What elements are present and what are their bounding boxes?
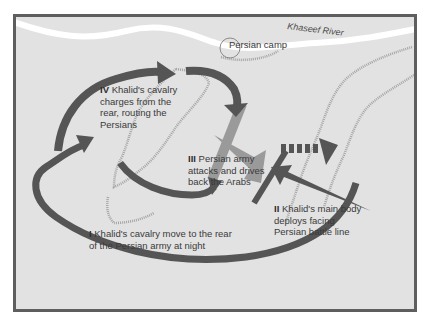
phase-iii-label: III Persian army attacks and drives back…	[188, 153, 265, 188]
phase-ii-line2: deploys facing	[274, 215, 361, 227]
phase-iii-line1: Persian army	[199, 153, 255, 164]
phase-ii-numeral: II	[274, 203, 279, 214]
phase-ii-label: II Khalid's main body deploys facing Per…	[274, 203, 361, 238]
phase-i-line2: of the Persian army at night	[89, 240, 232, 252]
phase-ii-line3: Persian battle line	[274, 226, 361, 238]
phase-iii-line2: attacks and drives	[188, 165, 265, 177]
phase-iv-line1: Khalid's cavalry	[112, 84, 178, 95]
phase-iii-line3: back the Arabs	[188, 176, 265, 188]
retreat-arrow	[281, 138, 338, 165]
phase-i-label: I Khalid's cavalry move to the rear of t…	[89, 228, 232, 251]
camp-label: Persian camp	[229, 39, 287, 50]
khaseef-river	[16, 21, 417, 48]
phase-ii-line1: Khalid's main body	[282, 203, 361, 214]
phase-iv-line2: charges from the	[100, 96, 177, 108]
phase-i-numeral: I	[89, 228, 92, 239]
cavalry-charge-arrow-right	[186, 71, 248, 117]
battle-map: Khaseef River Persian camp IV Khalid's c…	[13, 14, 417, 312]
phase-iv-line3: rear, routing the	[100, 107, 177, 119]
phase-iv-numeral: IV	[100, 84, 109, 95]
phase-iv-label: IV Khalid's cavalry charges from the rea…	[100, 84, 177, 130]
phase-iv-line4: Persians	[100, 119, 177, 131]
phase-iii-numeral: III	[188, 153, 196, 164]
phase-i-line1: Khalid's cavalry move to the rear	[94, 228, 232, 239]
